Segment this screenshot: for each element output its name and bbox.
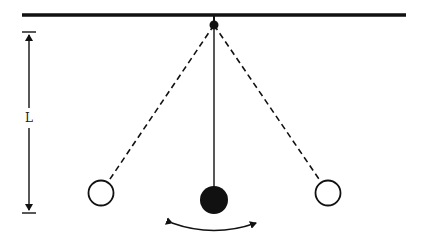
bob-left-extreme — [89, 181, 114, 206]
pendulum-diagram: L — [0, 0, 423, 245]
string-left-extreme — [108, 25, 214, 182]
bob-right-extreme — [316, 181, 341, 206]
length-label: L — [25, 111, 33, 125]
string-right-extreme — [214, 25, 321, 182]
pivot-point — [210, 21, 219, 30]
diagram-canvas: L — [0, 0, 423, 245]
swing-arc-arrow — [172, 223, 256, 231]
bob-rest — [200, 186, 228, 214]
